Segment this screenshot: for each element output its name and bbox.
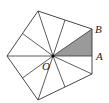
label-a: A (95, 50, 103, 62)
pentagon-diagram: O B A (0, 0, 109, 103)
center-point (51, 54, 54, 57)
label-b: B (95, 23, 102, 35)
label-o: O (42, 60, 50, 72)
